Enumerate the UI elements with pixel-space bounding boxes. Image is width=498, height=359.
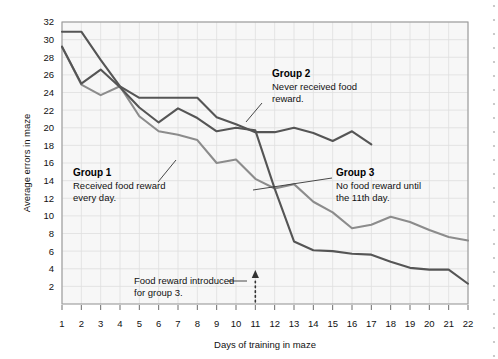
annotation-group3-title: Group 3 <box>336 167 375 178</box>
annotation-group2-line1: Never received food <box>272 81 357 92</box>
y-tick-label: 10 <box>43 210 54 221</box>
y-tick-label: 32 <box>43 16 54 27</box>
x-tick-label: 5 <box>137 318 142 329</box>
annotation-group1-title: Group 1 <box>73 167 112 178</box>
annotation-group3-line2: the 11th day. <box>336 192 390 203</box>
x-tick-label: 7 <box>175 318 180 329</box>
annotation-group3-line1: No food reward until <box>336 180 421 191</box>
x-tick-label: 10 <box>231 318 242 329</box>
x-tick-label: 21 <box>443 318 454 329</box>
y-axis-title: Average errors in maze <box>21 114 32 213</box>
x-tick-label: 18 <box>385 318 396 329</box>
x-tick-label: 2 <box>79 318 84 329</box>
x-tick-label: 15 <box>327 318 338 329</box>
x-tick-label: 1 <box>59 318 64 329</box>
y-tick-label: 30 <box>43 34 54 45</box>
x-tick-label: 6 <box>156 318 161 329</box>
x-tick-label: 11 <box>250 318 260 329</box>
y-tick-label: 16 <box>43 157 54 168</box>
annotation-group1-line2: every day. <box>73 192 116 203</box>
x-tick-label: 16 <box>347 318 358 329</box>
x-tick-label: 14 <box>308 318 319 329</box>
y-tick-label: 24 <box>43 87 54 98</box>
x-tick-label: 17 <box>366 318 377 329</box>
y-tick-label: 4 <box>49 263 54 274</box>
y-tick-label: 6 <box>49 246 54 257</box>
annotation-group2-title: Group 2 <box>272 68 311 79</box>
y-tick-label: 18 <box>43 140 54 151</box>
y-tick-label: 2 <box>49 281 54 292</box>
annotation-food-reward-line1: Food reward introduced <box>134 275 234 286</box>
x-axis-title: Days of training in maze <box>214 339 316 350</box>
y-tick-label: 26 <box>43 69 54 80</box>
x-axis-tick-marks <box>62 305 468 310</box>
x-tick-label: 3 <box>98 318 103 329</box>
y-tick-label: 28 <box>43 52 54 63</box>
x-tick-label: 22 <box>463 318 474 329</box>
y-tick-label: 14 <box>43 175 54 186</box>
annotation-group2-line2: reward. <box>272 93 304 104</box>
page-edge-dots <box>492 0 496 359</box>
annotation-group1-line1: Received food reward <box>73 180 165 191</box>
x-tick-label: 8 <box>195 318 200 329</box>
x-tick-label: 12 <box>269 318 280 329</box>
x-tick-label: 19 <box>405 318 416 329</box>
x-tick-label: 20 <box>424 318 435 329</box>
line-chart: 2468101214161820222426283032 12345678910… <box>0 0 498 359</box>
x-tick-label: 4 <box>117 318 122 329</box>
annotation-food-reward-line2: for group 3. <box>134 287 183 298</box>
y-tick-label: 22 <box>43 105 54 116</box>
x-axis-tick-labels: 12345678910111213141516171819202122 <box>59 318 473 329</box>
y-tick-label: 8 <box>49 228 54 239</box>
y-axis-tick-labels: 2468101214161820222426283032 <box>43 16 54 291</box>
x-tick-label: 9 <box>214 318 219 329</box>
x-tick-label: 13 <box>289 318 300 329</box>
chart-figure: 2468101214161820222426283032 12345678910… <box>0 0 498 359</box>
y-tick-label: 12 <box>43 193 54 204</box>
y-tick-label: 20 <box>43 122 54 133</box>
